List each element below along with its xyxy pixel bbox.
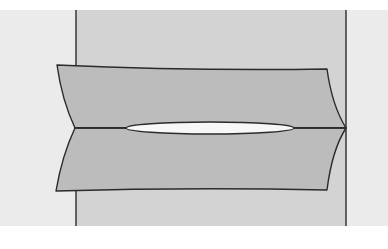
elliptical-void	[126, 122, 294, 134]
crack-void-diagram	[0, 0, 388, 249]
upper-plate	[57, 65, 346, 128]
lower-plate	[56, 128, 346, 191]
